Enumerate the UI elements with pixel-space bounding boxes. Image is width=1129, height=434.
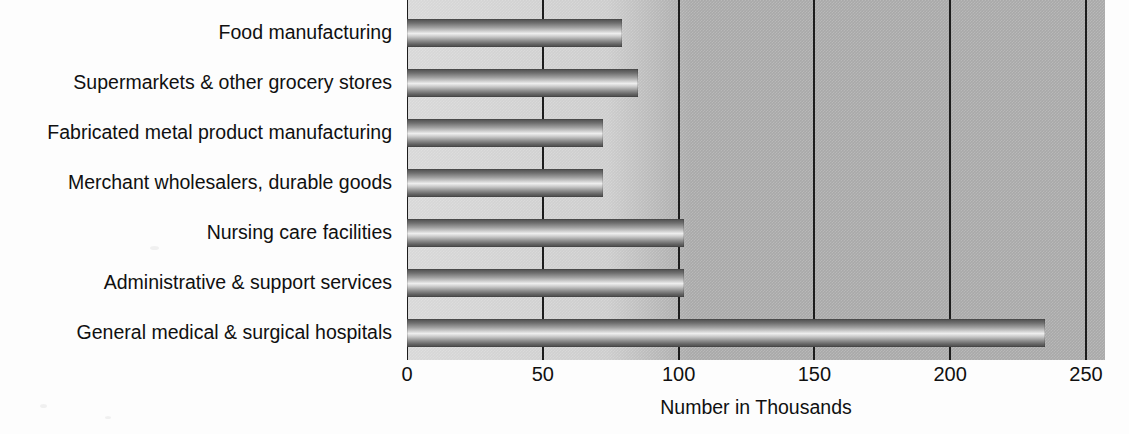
bar — [407, 69, 638, 97]
category-label: General medical & surgical hospitals — [77, 323, 392, 343]
category-axis-labels: Food manufacturingSupermarkets & other g… — [0, 0, 400, 360]
x-tick-label: 100 — [662, 364, 695, 384]
category-label: Food manufacturing — [219, 23, 392, 43]
scan-speckle — [105, 416, 111, 419]
x-tick-label: 250 — [1069, 364, 1102, 384]
chart-figure: Food manufacturingSupermarkets & other g… — [0, 0, 1129, 434]
gridline — [949, 0, 951, 360]
bar — [407, 269, 684, 297]
x-tick-label: 200 — [934, 364, 967, 384]
gridline — [1085, 0, 1087, 360]
gridline — [678, 0, 680, 360]
x-tick-label: 150 — [798, 364, 831, 384]
category-label: Administrative & support services — [104, 273, 392, 293]
category-label: Supermarkets & other grocery stores — [73, 73, 392, 93]
bar — [407, 169, 603, 197]
axis-title: Number in Thousands — [407, 396, 1105, 419]
x-tick-label: 50 — [532, 364, 554, 384]
scan-speckle — [40, 404, 47, 408]
bar — [407, 219, 684, 247]
bar — [407, 319, 1045, 347]
x-tick-label: 0 — [401, 364, 412, 384]
bar — [407, 119, 603, 147]
value-axis: Number in Thousands 050100150200250 — [407, 360, 1105, 434]
gridline — [813, 0, 815, 360]
bar — [407, 19, 622, 47]
category-label: Merchant wholesalers, durable goods — [68, 173, 392, 193]
category-label: Nursing care facilities — [207, 223, 392, 243]
category-label: Fabricated metal product manufacturing — [47, 123, 392, 143]
plot-area — [407, 0, 1105, 360]
